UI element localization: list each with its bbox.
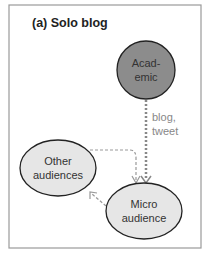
academic-label-line1: Acad- xyxy=(116,56,176,70)
diagram-title: (a) Solo blog xyxy=(32,16,108,30)
blog-tweet-label: blog, tweet xyxy=(152,110,178,138)
other-to-micro-arrow xyxy=(90,150,136,180)
academic-label: Acad- emic xyxy=(116,56,176,84)
other-label-line2: audiences xyxy=(20,168,96,182)
other-audiences-label: Other audiences xyxy=(20,154,96,182)
other-label-line1: Other xyxy=(20,154,96,168)
micro-label-line2: audience xyxy=(106,211,182,225)
edge-label-line1: blog, xyxy=(152,110,178,124)
academic-label-line2: emic xyxy=(116,70,176,84)
edge-label-line2: tweet xyxy=(152,124,178,138)
micro-audience-label: Micro audience xyxy=(106,197,182,225)
micro-label-line1: Micro xyxy=(106,197,182,211)
micro-to-other-arrow xyxy=(92,194,106,206)
